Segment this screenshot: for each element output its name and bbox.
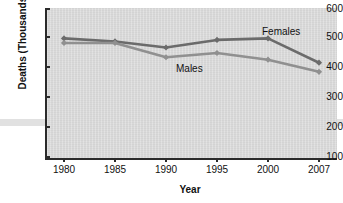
data-point-marker [163, 44, 169, 50]
series-annotation-males: Males [176, 63, 203, 74]
data-point-marker [316, 69, 322, 75]
series-females [61, 35, 322, 66]
series-annotation-females: Females [262, 26, 300, 37]
data-point-marker [214, 37, 220, 43]
data-point-marker [265, 57, 271, 63]
data-point-marker [163, 54, 169, 60]
data-point-marker [61, 40, 67, 46]
chart-figure: Deaths (Thousands) 600 500 400 300 200 1… [0, 0, 343, 203]
data-point-marker [214, 50, 220, 56]
